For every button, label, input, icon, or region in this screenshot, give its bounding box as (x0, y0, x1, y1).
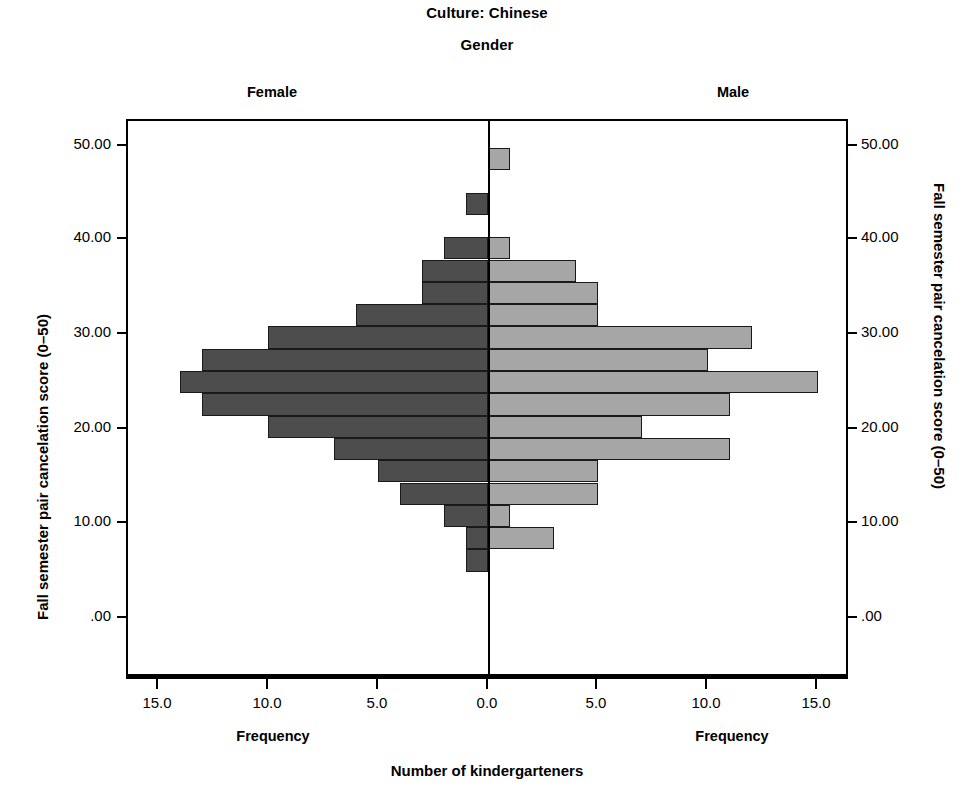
y-axis-tick (117, 144, 126, 146)
y-axis-tick (848, 144, 857, 146)
bar-female (378, 460, 488, 482)
panel-title-male: Male (633, 84, 833, 100)
bar-male (488, 416, 642, 438)
bar-male (488, 527, 554, 549)
y-axis-tick (117, 237, 126, 239)
y-axis-tick (117, 332, 126, 334)
x-axis-tick-label: 5.0 (347, 694, 407, 711)
y-axis-tick-label: 50.00 (73, 135, 111, 152)
y-axis-tick-label: .00 (90, 607, 111, 624)
y-axis-tick (117, 521, 126, 523)
chart-subtitle-gender: Gender (0, 36, 974, 53)
bar-male (488, 460, 598, 482)
bar-female (422, 282, 488, 304)
x-axis-caption-female: Frequency (163, 728, 383, 744)
bar-male (488, 260, 576, 282)
y-axis-tick-label: 50.00 (861, 135, 899, 152)
center-axis-line (488, 121, 490, 678)
bar-male (488, 237, 510, 259)
x-axis-tick-label: 5.0 (566, 694, 626, 711)
x-axis-tick (376, 679, 378, 689)
y-axis-tick-label: 30.00 (73, 323, 111, 340)
bar-male (488, 282, 598, 304)
y-axis-tick-label: 20.00 (73, 418, 111, 435)
y-axis-tick (848, 521, 857, 523)
y-axis-tick-label: 10.00 (73, 512, 111, 529)
y-axis-tick-label: 40.00 (73, 228, 111, 245)
y-axis-tick-label: 40.00 (861, 228, 899, 245)
x-axis-tick (266, 679, 268, 689)
bar-female (466, 193, 488, 215)
y-axis-tick (117, 427, 126, 429)
bar-male (488, 349, 708, 371)
x-axis-title: Number of kindergarteners (0, 762, 974, 779)
bar-female (268, 416, 488, 438)
y-axis-tick (848, 616, 857, 618)
bar-female (444, 237, 488, 259)
y-axis-tick-label: 30.00 (861, 323, 899, 340)
bar-female (334, 438, 488, 460)
x-axis-tick (486, 679, 488, 689)
bar-female (356, 304, 488, 326)
x-axis-tick-label: 15.0 (786, 694, 846, 711)
chart-title-culture: Culture: Chinese (0, 4, 974, 21)
x-axis-tick-label: 10.0 (676, 694, 736, 711)
y-axis-tick (848, 427, 857, 429)
bar-female (422, 260, 488, 282)
bar-female (444, 505, 488, 527)
x-axis-tick (705, 679, 707, 689)
bar-female (466, 549, 488, 571)
bar-female (466, 527, 488, 549)
x-axis-tick-label: 0.0 (457, 694, 517, 711)
bar-male (488, 393, 730, 415)
y-axis-tick-label: 20.00 (861, 418, 899, 435)
bar-female (202, 349, 488, 371)
bar-male (488, 148, 510, 170)
bar-male (488, 371, 818, 393)
y-axis-tick-label: .00 (861, 607, 882, 624)
x-axis-tick (595, 679, 597, 689)
x-axis-tick-label: 10.0 (237, 694, 297, 711)
population-pyramid-figure: Culture: Chinese Gender Female Male 50.0… (0, 0, 974, 802)
bar-female (202, 393, 488, 415)
y-axis-tick (117, 616, 126, 618)
plot-area (126, 119, 848, 676)
bar-female (400, 483, 488, 505)
bar-male (488, 326, 752, 348)
bar-male (488, 483, 598, 505)
y-axis-tick-label: 10.00 (861, 512, 899, 529)
x-axis-tick (156, 679, 158, 689)
y-axis-tick (848, 332, 857, 334)
bar-female (180, 371, 488, 393)
x-axis-caption-male: Frequency (622, 728, 842, 744)
bar-male (488, 304, 598, 326)
bar-male (488, 438, 730, 460)
y-axis-tick (848, 237, 857, 239)
bar-male (488, 505, 510, 527)
y-axis-title-left: Fall semester pair cancelation score (0–… (34, 314, 51, 620)
x-axis-tick (815, 679, 817, 689)
x-axis-tick-label: 15.0 (127, 694, 187, 711)
bar-female (268, 326, 488, 348)
panel-title-female: Female (172, 84, 372, 100)
y-axis-title-right: Fall semester pair cancelation score (0–… (931, 183, 948, 489)
